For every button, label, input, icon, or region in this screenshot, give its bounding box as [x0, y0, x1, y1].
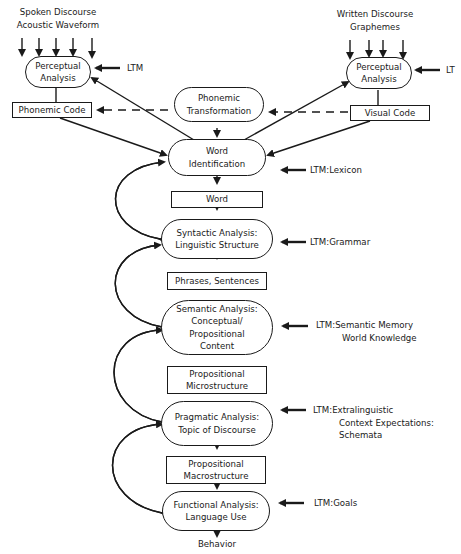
word-output-box: Word [171, 191, 263, 208]
propositional-microstructure-box: Propositional Microstructure [167, 366, 267, 394]
propositional-macrostructure-box: Propositional Macrostructure [166, 456, 266, 484]
semantic-analysis-node: Semantic Analysis: Conceptual/ Propositi… [161, 300, 273, 355]
syntactic-analysis-node: Syntactic Analysis: Linguistic Structure [161, 219, 273, 259]
visual-code-box: Visual Code [350, 105, 430, 121]
lexicon-ltm-label: LTM:Lexicon [310, 164, 362, 177]
phonemic-code-box: Phonemic Code [12, 102, 92, 118]
phonemic-transformation-node: Phonemic Transformation [174, 87, 264, 122]
written-discourse-label: Written Discourse Graphemes [320, 8, 430, 33]
goals-ltm-label: LTM:Goals [314, 497, 357, 510]
left-perceptual-analysis-node: Perceptual Analysis [25, 56, 91, 88]
semantic-memory-ltm-label: LTM:Semantic Memory World Knowledge [316, 319, 417, 344]
word-identification-node: Word Identification [168, 139, 266, 176]
extralinguistic-ltm-label: LTM:Extralinguistic Context Expectations… [313, 404, 434, 442]
right-perceptual-ltm-label: LT [446, 64, 455, 77]
right-perceptual-analysis-node: Perceptual Analysis [346, 57, 412, 89]
pragmatic-analysis-node: Pragmatic Analysis: Topic of Discourse [161, 401, 273, 446]
grammar-ltm-label: LTM:Grammar [310, 236, 370, 249]
spoken-discourse-label: Spoken Discourse Acoustic Waveform [8, 6, 108, 31]
left-perceptual-ltm-label: LTM [127, 62, 143, 75]
functional-analysis-node: Functional Analysis: Language Use [162, 491, 270, 531]
behavior-label: Behavior [187, 538, 247, 551]
phrases-sentences-box: Phrases, Sentences [167, 272, 267, 290]
